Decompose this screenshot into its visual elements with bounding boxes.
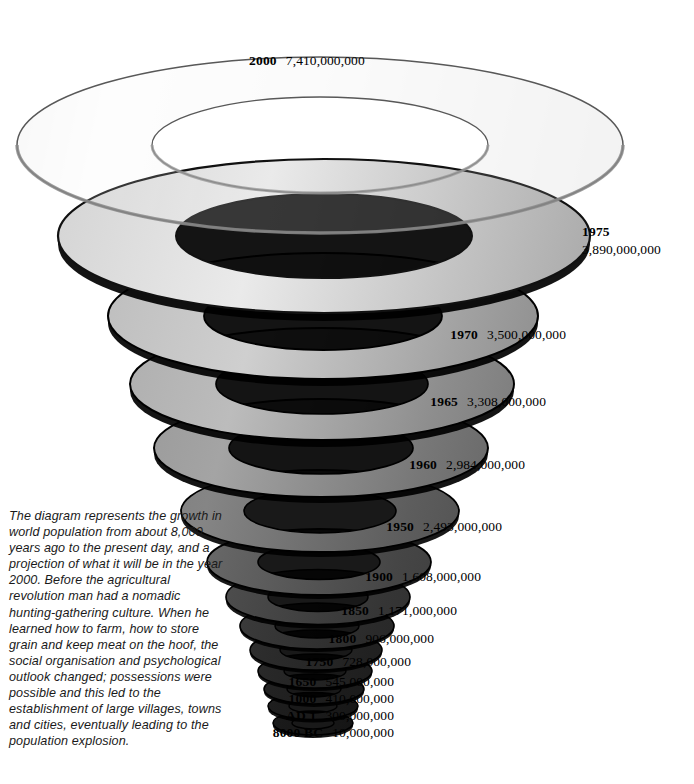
ring-label-year: 1000 bbox=[289, 691, 317, 706]
ring-label-1850[interactable]: 18501,171,000,000 bbox=[230, 601, 457, 619]
ring-label-year: 1800 bbox=[329, 631, 357, 646]
ring-label-value: 410,000,000 bbox=[325, 691, 394, 706]
population-spiral-diagram: The diagram represents the growth in wor… bbox=[0, 0, 694, 784]
ring-label-1975[interactable]: 19753,890,000,000 bbox=[582, 224, 661, 258]
ring-label-value: 545,000,000 bbox=[325, 674, 394, 689]
ring-label-2000[interactable]: 20007,410,000,000 bbox=[249, 51, 365, 69]
ring-label-year: 1900 bbox=[365, 569, 393, 584]
ring-label-8000-bc[interactable]: 8000 BC10,000,000 bbox=[175, 723, 394, 741]
ring-label-year: 1750 bbox=[306, 654, 334, 669]
ring-label-value: 3,308,000,000 bbox=[467, 394, 546, 409]
ring-label-1650[interactable]: 1650545,000,000 bbox=[175, 672, 394, 690]
ring-label-1800[interactable]: 1800906,000,000 bbox=[215, 629, 434, 647]
ring-label-value: 3,500,000,000 bbox=[487, 327, 566, 342]
ring-label-1000[interactable]: 1000410,000,000 bbox=[175, 689, 394, 707]
ring-label-value: 3,890,000,000 bbox=[582, 242, 661, 258]
ring-label-1750[interactable]: 1750728,000,000 bbox=[195, 652, 411, 670]
ring-label-year: 1975 bbox=[582, 224, 661, 240]
ring-label-year: 1965 bbox=[430, 394, 458, 409]
ring-label-1900[interactable]: 19001,608,000,000 bbox=[254, 567, 481, 585]
ring-label-value: 300,000,000 bbox=[325, 708, 394, 723]
ring-label-1965[interactable]: 19653,308,000,000 bbox=[319, 392, 546, 410]
ring-label-year: 2000 bbox=[249, 53, 277, 68]
ring-label-year: AD 1 bbox=[286, 708, 316, 723]
ring-label-value: 10,000,000 bbox=[332, 725, 394, 740]
ring-label-year: 8000 BC bbox=[273, 725, 324, 740]
ring-label-value: 7,410,000,000 bbox=[286, 53, 365, 68]
ring-label-value: 1,171,000,000 bbox=[378, 603, 457, 618]
ring-label-year: 1650 bbox=[289, 674, 317, 689]
ring-label-1950[interactable]: 19502,493,000,000 bbox=[275, 517, 502, 535]
ring-label-value: 728,000,000 bbox=[342, 654, 411, 669]
ring-label-1960[interactable]: 19602,984,000,000 bbox=[298, 455, 525, 473]
ring-label-value: 2,493,000,000 bbox=[423, 519, 502, 534]
ring-label-value: 906,000,000 bbox=[365, 631, 434, 646]
ring-label-year: 1970 bbox=[450, 327, 478, 342]
ring-label-year: 1950 bbox=[386, 519, 414, 534]
ring-label-value: 2,984,000,000 bbox=[446, 457, 525, 472]
ring-label-value: 1,608,000,000 bbox=[402, 569, 481, 584]
ring-label-ad-1[interactable]: AD 1300,000,000 bbox=[175, 706, 394, 724]
ring-label-1970[interactable]: 19703,500,000,000 bbox=[339, 325, 566, 343]
ring-label-year: 1960 bbox=[409, 457, 437, 472]
ring-label-year: 1850 bbox=[341, 603, 369, 618]
